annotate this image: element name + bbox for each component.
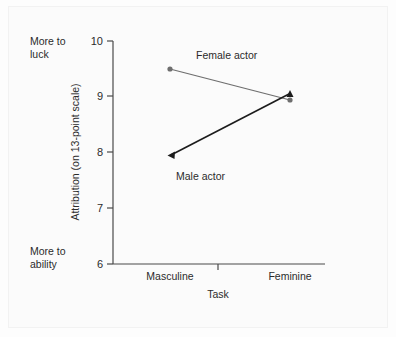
- y-tick-label-8: 8: [97, 146, 103, 158]
- y-tick-label-7: 7: [97, 202, 103, 214]
- data-point-male-feminine: [287, 90, 294, 97]
- y-anchor-low-line1: More to: [30, 245, 66, 257]
- data-point-female-masculine: [167, 66, 172, 71]
- series-annotation-male: Male actor: [176, 170, 226, 182]
- interaction-line-chart: 10 9 8 7 6 More to luck More to ability …: [0, 0, 396, 337]
- y-anchor-high-line2: luck: [30, 48, 49, 60]
- chart-screenshot: 10 9 8 7 6 More to luck More to ability …: [0, 0, 396, 337]
- series-annotation-female: Female actor: [196, 49, 258, 61]
- series-line-male: [171, 94, 289, 155]
- y-axis-title: Attribution (on 13-point scale): [69, 83, 81, 220]
- y-tick-label-9: 9: [97, 90, 103, 102]
- y-anchor-low-line2: ability: [30, 258, 58, 270]
- series-line-female: [170, 69, 290, 100]
- x-category-label-masculine: Masculine: [146, 270, 193, 282]
- x-category-label-feminine: Feminine: [268, 270, 311, 282]
- data-point-male-masculine: [168, 152, 176, 160]
- x-axis-title: Task: [207, 288, 229, 300]
- y-tick-label-10: 10: [91, 35, 103, 47]
- data-point-female-feminine: [287, 97, 292, 102]
- y-anchor-high-line1: More to: [30, 35, 66, 47]
- y-tick-label-6: 6: [97, 258, 103, 270]
- plot-area: 10 9 8 7 6 More to luck More to ability …: [0, 0, 396, 337]
